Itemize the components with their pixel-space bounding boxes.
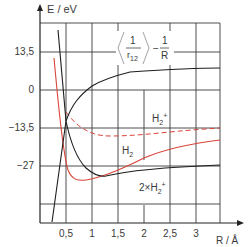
formula-r12-subscript: 12	[130, 55, 138, 62]
x-tick-2-5: 2,5	[160, 229, 180, 239]
label-2h2plus-sup: +	[162, 181, 166, 188]
x-axis-arrow	[237, 220, 244, 226]
curve-h2	[54, 58, 220, 180]
x-tick-0-5: 0,5	[56, 229, 76, 239]
formula-numerator-1: 1	[130, 36, 136, 46]
label-2h2plus-text: 2×H	[139, 182, 158, 193]
y-axis-label: E / eV	[47, 4, 77, 15]
formula-R: R	[161, 51, 168, 61]
formula-r12: r12	[127, 51, 138, 62]
label-2h2plus: 2×H2+	[137, 180, 168, 196]
y-tick-neg-27: −27	[2, 161, 34, 171]
label-h2plus-sub: 2	[159, 119, 163, 126]
y-tick-13-5: 13,5	[2, 47, 34, 57]
curve-2h2plus	[52, 121, 220, 222]
y-axis-arrow	[37, 4, 43, 11]
x-tick-1: 1	[82, 229, 102, 239]
x-axis-label: R / Å	[216, 236, 238, 246]
y-tick-neg-13-5: −13,5	[2, 123, 34, 133]
curve-electron-repulsion	[66, 68, 220, 121]
formula-numerator-2: 1	[162, 36, 168, 46]
x-tick-1-5: 1,5	[108, 229, 128, 239]
curve-h2plus	[66, 112, 220, 136]
label-h2plus: H2+	[151, 112, 168, 126]
x-tick-3: 3	[186, 229, 206, 239]
label-h2plus-sup: +	[163, 112, 167, 119]
formula-minus: −	[153, 44, 159, 54]
label-h2: H2	[122, 146, 133, 158]
x-tick-2: 2	[134, 229, 154, 239]
label-h2-sub: 2	[129, 151, 133, 158]
label-2h2plus-sub: 2	[158, 188, 162, 195]
y-tick-0: 0	[2, 85, 34, 95]
formula-label-box: 1 r12 − 1 R	[116, 31, 174, 65]
